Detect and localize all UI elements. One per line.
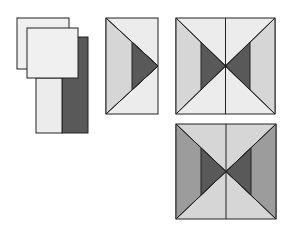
- front-square: [27, 28, 78, 78]
- step-4-hourglass-medium: [176, 124, 276, 219]
- quilt-diagram: [0, 0, 288, 230]
- step-3-hourglass-light: [176, 18, 275, 114]
- diagram-canvas: [0, 0, 288, 230]
- step-1-stacked-squares: [17, 18, 88, 133]
- step-2-flying-geese: [106, 18, 158, 114]
- light-strip: [36, 78, 62, 133]
